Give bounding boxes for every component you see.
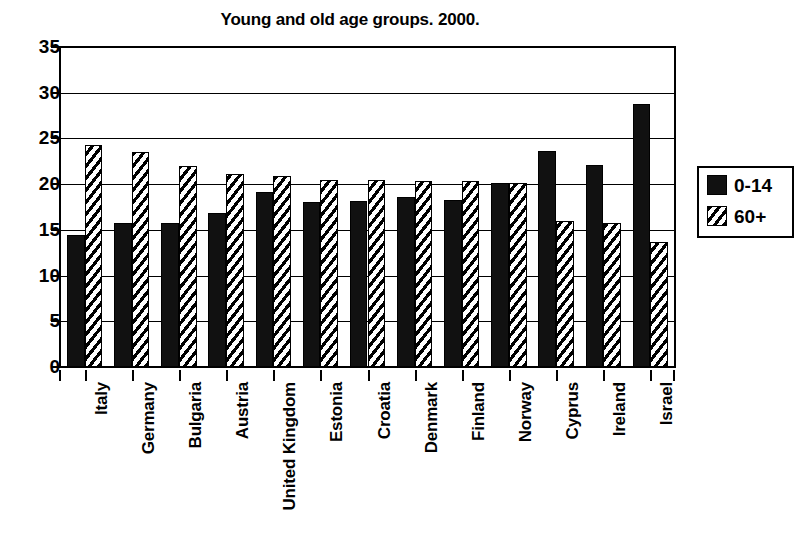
x-axis-tick-mark bbox=[603, 370, 605, 381]
x-axis-tick-mark bbox=[226, 370, 228, 381]
bar-young bbox=[397, 197, 415, 367]
x-axis-ticks bbox=[59, 370, 676, 382]
bar-old bbox=[650, 242, 668, 367]
x-axis-tick-label: United Kingdom bbox=[280, 382, 300, 510]
bar-old bbox=[320, 180, 338, 367]
bars-layer bbox=[61, 47, 674, 367]
bar-old bbox=[85, 145, 103, 367]
bar-young bbox=[208, 213, 226, 368]
x-axis-tick-label: Israel bbox=[657, 382, 677, 425]
bar-young bbox=[67, 235, 85, 367]
bar-old bbox=[368, 180, 386, 367]
bar-old bbox=[415, 181, 433, 368]
bar-young bbox=[538, 151, 556, 367]
bar-young bbox=[444, 200, 462, 367]
bar-old bbox=[132, 152, 150, 367]
legend-label-young: 0-14 bbox=[734, 176, 772, 195]
bar-young bbox=[256, 192, 274, 367]
x-axis-tick-mark bbox=[85, 370, 87, 381]
bar-young bbox=[586, 165, 604, 367]
x-axis-tick-label: Norway bbox=[516, 382, 536, 442]
bar-old bbox=[556, 221, 574, 367]
legend-item-young: 0-14 bbox=[707, 175, 772, 195]
x-axis-tick-label: Croatia bbox=[375, 382, 395, 439]
x-axis-tick-label: Italy bbox=[92, 382, 112, 415]
legend-swatch-young-icon bbox=[707, 175, 727, 195]
x-axis-tick-label: Bulgaria bbox=[186, 382, 206, 448]
x-axis-tick-mark bbox=[320, 370, 322, 381]
x-axis-tick-mark bbox=[273, 370, 275, 381]
x-axis-tick-label: Germany bbox=[139, 382, 159, 454]
x-axis-tick-label: Estonia bbox=[327, 382, 347, 442]
x-axis-tick-mark bbox=[462, 370, 464, 381]
x-axis-tick-mark bbox=[415, 370, 417, 381]
x-axis-tick-mark bbox=[368, 370, 370, 381]
x-axis-tick-label: Cyprus bbox=[563, 382, 583, 439]
x-axis-tick-mark-end bbox=[673, 370, 675, 381]
x-axis-tick-mark bbox=[132, 370, 134, 381]
x-axis-tick-mark bbox=[509, 370, 511, 381]
chart-legend: 0-14 60+ bbox=[697, 166, 794, 238]
bar-young bbox=[633, 104, 651, 367]
bar-young bbox=[114, 223, 132, 367]
y-axis: 05101520253035 bbox=[0, 0, 60, 554]
bar-old bbox=[509, 183, 527, 367]
x-axis-tick-mark-start bbox=[59, 370, 61, 381]
x-axis-tick-mark bbox=[650, 370, 652, 381]
x-axis-tick-mark bbox=[556, 370, 558, 381]
x-axis-labels: ItalyGermanyBulgariaAustriaUnited Kingdo… bbox=[59, 382, 676, 522]
bar-old bbox=[603, 223, 621, 367]
legend-item-old: 60+ bbox=[707, 206, 766, 226]
chart-title: Young and old age groups. 2000. bbox=[0, 10, 700, 30]
x-axis-tick-mark bbox=[179, 370, 181, 381]
bar-old bbox=[179, 166, 197, 367]
bar-young bbox=[161, 223, 179, 367]
bar-old bbox=[226, 174, 244, 367]
legend-label-old: 60+ bbox=[734, 207, 766, 226]
bar-old bbox=[462, 181, 480, 367]
bar-old bbox=[273, 176, 291, 367]
x-axis-tick-label: Ireland bbox=[610, 382, 630, 436]
bar-young bbox=[303, 202, 321, 367]
x-axis-tick-label: Austria bbox=[233, 382, 253, 439]
x-axis-tick-label: Denmark bbox=[422, 382, 442, 453]
legend-swatch-old-icon bbox=[707, 206, 727, 226]
bar-young bbox=[350, 201, 368, 367]
bar-chart-figure: Young and old age groups. 2000. 05101520… bbox=[0, 0, 808, 554]
bar-young bbox=[491, 183, 509, 367]
x-axis-tick-label: Finland bbox=[469, 382, 489, 441]
